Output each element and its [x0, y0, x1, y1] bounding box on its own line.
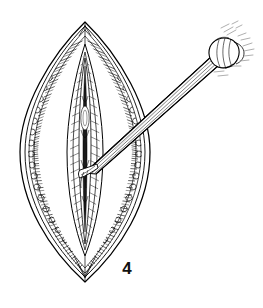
instrument-hub	[209, 37, 244, 69]
figure-container: 4	[0, 0, 263, 308]
figure-number-label: 4	[112, 259, 142, 279]
instrument-shaft	[84, 55, 219, 174]
deep-incision-slit	[79, 58, 91, 244]
